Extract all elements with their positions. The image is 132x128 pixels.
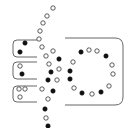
open-dot-icon (95, 49, 99, 53)
open-dot-icon (111, 72, 115, 76)
open-dot-icon (51, 6, 55, 10)
filled-dot-icon (49, 70, 53, 74)
open-dot-icon (23, 87, 27, 91)
open-dot-icon (41, 21, 45, 25)
open-dot-icon (17, 87, 21, 91)
small-frame-dots-layer (17, 41, 27, 99)
open-dot-icon (90, 92, 94, 96)
filled-dot-icon (43, 107, 47, 111)
small-frame-2 (13, 62, 37, 79)
open-dot-icon (38, 29, 42, 33)
open-dot-icon (87, 48, 91, 52)
open-dot-icon (57, 67, 61, 71)
diagram-canvas (0, 0, 132, 128)
dot-pattern-diagram (0, 0, 132, 128)
open-dot-icon (45, 14, 49, 18)
open-dot-icon (47, 62, 51, 66)
open-dot-icon (40, 45, 44, 49)
open-dot-icon (44, 116, 48, 120)
chain-dots-layer (37, 6, 61, 128)
filled-dot-icon (18, 50, 22, 54)
filled-dot-icon (79, 50, 83, 54)
open-dot-icon (72, 86, 76, 90)
filled-dot-icon (23, 41, 27, 45)
open-dot-icon (44, 54, 48, 58)
open-dot-icon (40, 87, 44, 91)
open-dot-icon (18, 95, 22, 99)
open-dot-icon (37, 37, 41, 41)
filled-dot-icon (20, 72, 24, 76)
filled-dot-icon (80, 91, 84, 95)
filled-dot-icon (51, 89, 55, 93)
open-dot-icon (18, 64, 22, 68)
filled-dot-icon (46, 78, 50, 82)
filled-dot-icon (46, 124, 50, 128)
open-dot-icon (51, 49, 55, 53)
open-dot-icon (46, 97, 50, 101)
open-dot-icon (107, 84, 111, 88)
filled-dot-icon (68, 69, 72, 73)
open-dot-icon (71, 60, 75, 64)
ring-dots-layer (68, 48, 115, 96)
open-dot-icon (110, 63, 114, 67)
filled-dot-icon (104, 54, 108, 58)
filled-dot-icon (68, 77, 72, 81)
open-dot-icon (55, 78, 59, 82)
filled-dot-icon (99, 90, 103, 94)
filled-dot-icon (57, 57, 61, 61)
